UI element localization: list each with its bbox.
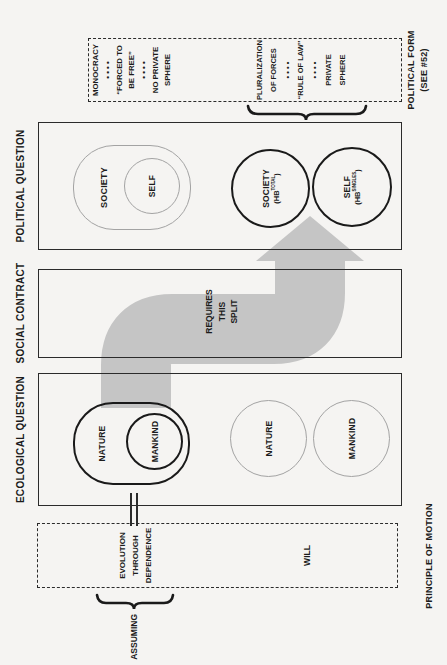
mankind-merged-circle: MANKIND [126,413,183,470]
society-hb-total-circle: SOCIETY (HBTOTAL) [231,149,310,228]
principle-of-motion-box [37,523,398,588]
equals-line-bottom [136,493,138,526]
this-line: THIS [216,274,229,349]
separator-dots: • • • • [102,39,114,101]
equals-line-top [130,493,132,526]
political-form-label-line: POLITICAL FORM [405,20,418,120]
nature-split-circle: NATURE [230,400,307,477]
self-merged-circle: SELF [124,158,180,214]
separator-dots: • • • • [138,39,150,101]
separator-dots: • • • • [308,38,322,102]
assuming-label: ASSUMING [129,614,139,663]
self-hb-singles-formula: (HBSINGLES) [352,169,362,205]
ecological-question-label: ECOLOGICAL QUESTION [15,363,26,516]
pluralization-line: PLURALIZATION [253,38,267,102]
mankind-split-circle: MANKIND [313,400,390,477]
assuming-brace [95,592,175,612]
private-line: PRIVATE [322,38,336,102]
mankind-merged-label: MANKIND [150,421,160,463]
political-form-label: POLITICAL FORM (SEE #52) [405,20,431,120]
requires-this-split-text: REQUIRES THIS SPLIT [203,274,241,349]
no-private-line: NO PRIVATE [150,39,162,101]
requires-line: REQUIRES [203,274,216,349]
pluralization-brace [246,103,368,123]
will-text: WILL [302,524,312,587]
mankind-split-label: MANKIND [347,418,357,460]
be-free-line: BE FREE” [126,39,138,101]
through-line: THROUGH [129,524,142,587]
principle-of-motion-label: PRINCIPLE OF MOTION [424,486,434,626]
of-forces-line: OF FORCES [267,38,281,102]
self-merged-label: SELF [147,175,157,198]
sphere-line: SPHERE [162,39,174,101]
diagram-canvas: PRINCIPLE OF MOTION EVOLUTION THROUGH DE… [0,0,447,665]
separator-dots: • • • • [281,38,295,102]
sphere-line: SPHERE [336,38,350,102]
diagram-page: PRINCIPLE OF MOTION EVOLUTION THROUGH DE… [0,0,447,665]
rule-of-law-line: “RULE OF LAW” [294,38,308,102]
dependence-line: DEPENDENCE [142,524,155,587]
forced-to-line: “FORCED TO [114,39,126,101]
evolution-line: EVOLUTION [116,524,129,587]
society-split-label: SOCIETY [261,169,271,208]
monocracy-line: MONOCRACY [90,39,102,101]
nature-merged-label: NATURE [97,402,107,485]
pluralization-list: PLURALIZATION OF FORCES • • • • “RULE OF… [253,38,350,102]
political-question-label: POLITICAL QUESTION [15,112,26,260]
self-split-label: SELF [342,176,352,199]
social-contract-label: SOCIAL CONTRACT [15,258,26,368]
self-hb-singles-circle: SELF (HBSINGLES) [312,147,392,227]
evolution-through-dependence-text: EVOLUTION THROUGH DEPENDENCE [116,524,155,587]
society-merged-label: SOCIETY [99,145,109,230]
nature-split-label: NATURE [264,421,274,457]
society-hb-total-formula: (HBTOTAL) [271,173,281,203]
split-line: SPLIT [228,274,241,349]
see-ref-label: (SEE #52) [418,20,431,120]
monocracy-list: MONOCRACY • • • • “FORCED TO BE FREE” • … [90,39,174,101]
